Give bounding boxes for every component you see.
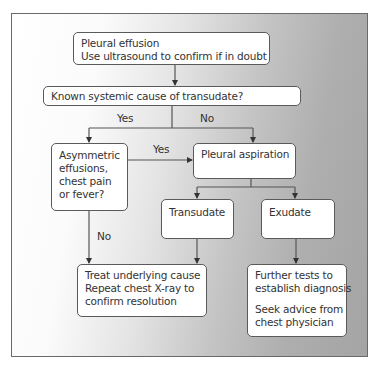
node-text: Exudate — [269, 206, 327, 219]
edge-label-known-yes: Yes — [117, 112, 133, 124]
node-text: Use ultrasound to confirm if in doubt — [81, 50, 262, 63]
node-text: Pleural aspiration — [201, 148, 288, 161]
node-text: effusions, — [59, 162, 120, 175]
edge-label-known-no: No — [200, 112, 214, 124]
node-text: or fever? — [59, 188, 120, 201]
node-treat-underlying-cause: Treat underlying cause Repeat chest X-ra… — [77, 264, 207, 317]
node-text: confirm resolution — [85, 295, 199, 308]
node-text: chest physician — [255, 316, 339, 329]
node-text: Treat underlying cause — [85, 269, 199, 282]
node-known-systemic-cause: Known systemic cause of transudate? — [43, 86, 301, 106]
node-text: chest pain — [59, 175, 120, 188]
node-pleural-effusion: Pleural effusion Use ultrasound to confi… — [73, 32, 270, 65]
node-text: Transudate — [169, 206, 226, 219]
node-text: Pleural effusion — [81, 37, 262, 50]
node-text: Further tests to — [255, 269, 339, 282]
node-exudate: Exudate — [261, 199, 335, 239]
spacer — [255, 295, 339, 303]
edge-label-asym-no: No — [97, 230, 111, 242]
node-text: Asymmetric — [59, 149, 120, 162]
node-text: establish diagnosis — [255, 282, 339, 295]
node-text: Known systemic cause of transudate? — [51, 90, 293, 103]
node-text: Seek advice from — [255, 303, 339, 316]
node-text: Repeat chest X-ray to — [85, 282, 199, 295]
node-further-tests: Further tests to establish diagnosis See… — [247, 264, 347, 337]
node-pleural-aspiration: Pleural aspiration — [193, 143, 296, 179]
edge-label-asym-yes: Yes — [153, 143, 169, 155]
node-transudate: Transudate — [161, 199, 234, 239]
node-asymmetric-effusions: Asymmetric effusions, chest pain or feve… — [51, 143, 128, 211]
